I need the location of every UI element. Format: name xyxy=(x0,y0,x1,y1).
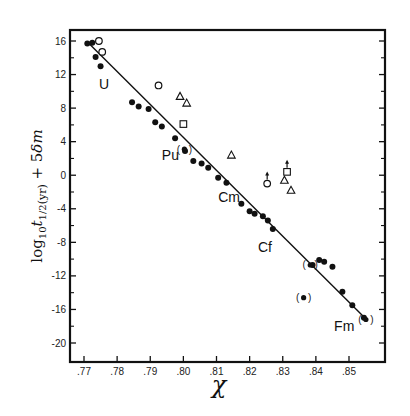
filled-circle-marker xyxy=(265,218,271,224)
data-points: ()()()() xyxy=(84,38,373,325)
open-circle-marker xyxy=(155,82,162,89)
open-square-marker xyxy=(284,169,291,176)
filled-circle-marker xyxy=(136,103,142,109)
filled-circle-marker xyxy=(146,106,152,112)
open-paren: ( xyxy=(296,292,300,303)
x-tick-label: .78 xyxy=(110,366,124,377)
x-tick-label: .80 xyxy=(176,366,190,377)
y-tick-label: 8 xyxy=(60,103,66,114)
x-tick-label: .85 xyxy=(342,366,356,377)
x-tick-label: .77 xyxy=(77,366,91,377)
filled-circle-marker xyxy=(93,54,99,60)
open-square-marker xyxy=(180,121,187,128)
close-paren: ) xyxy=(308,292,311,303)
filled-circle-marker xyxy=(205,165,211,171)
x-axis-title: χ xyxy=(210,371,228,399)
y-tick-label: 4 xyxy=(60,136,66,147)
paren-circle-marker xyxy=(301,295,306,300)
paren-circle-marker xyxy=(182,147,187,152)
y-axis-label: log10t1/2(yr) + 5δm xyxy=(28,129,49,262)
filled-circle-marker xyxy=(172,135,178,141)
element-label-u: U xyxy=(99,76,109,92)
arrowhead-icon xyxy=(265,172,269,176)
filled-circle-marker xyxy=(223,180,229,186)
filled-circle-marker xyxy=(89,40,95,46)
scatter-chart: 1612840-4-8-12-16-20 .77.78.79.80.81.82.… xyxy=(0,0,410,416)
filled-circle-marker xyxy=(98,63,104,69)
y-tick-label: -12 xyxy=(52,270,67,281)
filled-circle-marker xyxy=(129,99,135,105)
paren-circle-marker xyxy=(363,317,368,322)
x-tick-label: .84 xyxy=(309,366,323,377)
y-tick-label: -20 xyxy=(52,338,67,349)
open-triangle-marker xyxy=(183,99,191,106)
open-triangle-marker xyxy=(281,176,289,183)
open-circle-marker xyxy=(96,38,103,45)
filled-circle-marker xyxy=(321,259,327,265)
filled-circle-marker xyxy=(152,119,158,125)
y-tick-label: 16 xyxy=(55,36,67,47)
y-axis-title: log10t1/2(yr) + 5δm xyxy=(28,129,49,262)
close-paren: ) xyxy=(315,259,318,270)
x-tick-label: .82 xyxy=(243,366,257,377)
open-triangle-marker xyxy=(287,186,295,193)
filled-circle-marker xyxy=(329,264,335,270)
element-label-pu: Pu xyxy=(162,147,179,163)
y-tick-label: -16 xyxy=(52,304,67,315)
open-triangle-marker xyxy=(176,92,184,99)
filled-circle-marker xyxy=(215,175,221,181)
x-axis-label: χ xyxy=(210,371,228,399)
filled-circle-marker xyxy=(190,158,196,164)
element-label-fm: Fm xyxy=(334,318,354,334)
y-tick-label: 0 xyxy=(60,170,66,181)
open-circle-marker xyxy=(99,49,106,56)
close-paren: ) xyxy=(189,144,192,155)
y-tick-label: -4 xyxy=(57,203,66,214)
open-circle-marker xyxy=(264,180,271,187)
filled-circle-marker xyxy=(252,211,258,217)
close-paren: ) xyxy=(370,314,373,325)
y-tick-label: 12 xyxy=(55,69,67,80)
x-tick-label: .83 xyxy=(276,366,290,377)
arrowhead-icon xyxy=(285,160,289,164)
x-tick-label: .79 xyxy=(143,366,157,377)
paren-circle-marker xyxy=(308,262,313,267)
filled-circle-marker xyxy=(349,302,355,308)
filled-circle-marker xyxy=(339,289,345,295)
element-label-cm: Cm xyxy=(218,189,240,205)
y-tick-label: -8 xyxy=(57,237,66,248)
open-triangle-marker xyxy=(228,151,236,158)
filled-circle-marker xyxy=(260,213,266,219)
filled-circle-marker xyxy=(159,124,165,130)
element-label-cf: Cf xyxy=(258,239,272,255)
filled-circle-marker xyxy=(270,226,276,232)
open-paren: ( xyxy=(303,259,307,270)
filled-circle-marker xyxy=(199,160,205,166)
element-labels: UPuCmCfFm xyxy=(99,76,354,334)
